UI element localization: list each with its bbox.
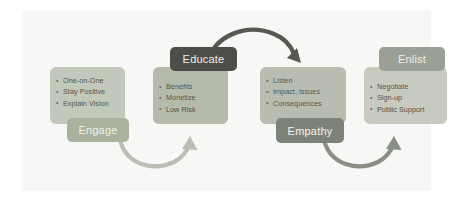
stage-label-text: Empathy <box>288 125 333 137</box>
list-item: Negotiate <box>370 81 447 92</box>
stage-label-empathy: Empathy <box>276 118 344 143</box>
list-item: Public Support <box>370 104 447 115</box>
stage-card-educate: Benefits Monetize Low Risk <box>153 67 228 124</box>
diagram-canvas: One-on-One Stay Positive Explain Vision … <box>0 0 453 201</box>
list-item: Consequences <box>266 98 346 109</box>
stage-label-text: Enlist <box>398 53 426 65</box>
bullet-list-empathy: Listen Impact, Issues Consequences <box>266 75 346 109</box>
list-item: Explain Vision <box>56 98 125 109</box>
list-item: Listen <box>266 75 346 86</box>
list-item: Impact, Issues <box>266 86 346 97</box>
stage-card-engage: One-on-One Stay Positive Explain Vision <box>50 67 125 124</box>
connector-engage-to-educate-arrow <box>118 128 204 178</box>
bullet-list-engage: One-on-One Stay Positive Explain Vision <box>56 75 125 109</box>
list-item: Monetize <box>159 92 228 103</box>
stage-label-text: Engage <box>78 124 117 136</box>
list-item: Benefits <box>159 81 228 92</box>
stage-label-enlist: Enlist <box>379 47 445 71</box>
list-item: Sign-up <box>370 92 447 103</box>
list-item: One-on-One <box>56 75 125 86</box>
bullet-list-enlist: Negotiate Sign-up Public Support <box>370 81 447 115</box>
diagram-panel: One-on-One Stay Positive Explain Vision … <box>22 10 431 191</box>
list-item: Stay Positive <box>56 86 125 97</box>
stage-label-educate: Educate <box>170 47 237 71</box>
stage-card-empathy: Listen Impact, Issues Consequences <box>260 67 346 124</box>
bullet-list-educate: Benefits Monetize Low Risk <box>159 81 228 115</box>
list-item: Low Risk <box>159 104 228 115</box>
stage-label-text: Educate <box>183 53 225 65</box>
stage-card-enlist: Negotiate Sign-up Public Support <box>364 67 447 124</box>
stage-label-engage: Engage <box>67 118 129 142</box>
